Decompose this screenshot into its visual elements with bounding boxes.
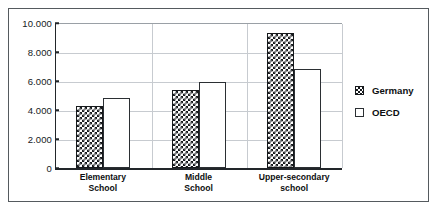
chart-frame: 10.000 8.000 6.000 4.000 2.000 0 [8, 8, 429, 202]
bar-group-elementary-school [55, 23, 151, 168]
legend-label-oecd: OECD [372, 107, 400, 118]
chart-legend: Germany OECD [355, 85, 439, 129]
x-axis-baseline [55, 168, 342, 170]
y-tick-mark [55, 80, 59, 82]
legend-label-germany: Germany [372, 85, 414, 96]
legend-swatch-oecd-icon [355, 108, 364, 117]
y-axis: 10.000 8.000 6.000 4.000 2.000 0 [9, 23, 52, 168]
y-tick-label: 0 [12, 163, 52, 174]
bar-group-upper-secondary-school [246, 23, 342, 168]
x-label-middle-school: Middle School [151, 172, 247, 194]
bar-oecd-elementary-school [103, 98, 130, 168]
y-tick-label: 2.000 [12, 134, 52, 145]
bar-oecd-middle-school [199, 82, 226, 168]
bar-germany-elementary-school [76, 106, 103, 168]
legend-item-oecd: OECD [355, 107, 439, 118]
category-separator [342, 24, 343, 168]
y-tick-mark [55, 167, 59, 169]
x-axis-labels: Elementary School Middle School Upper-se… [55, 172, 342, 194]
bar-layer [55, 23, 342, 168]
y-tick-label: 6.000 [12, 76, 52, 87]
y-tick-mark [55, 22, 59, 24]
x-label-upper-secondary-school: Upper-secondary school [246, 172, 342, 194]
y-tick-mark [55, 109, 59, 111]
y-tick-mark [55, 51, 59, 53]
legend-item-germany: Germany [355, 85, 439, 96]
x-label-elementary-school: Elementary School [55, 172, 151, 194]
chart-figure: 10.000 8.000 6.000 4.000 2.000 0 [0, 0, 439, 218]
y-tick-label: 10.000 [12, 18, 52, 29]
bar-germany-middle-school [172, 90, 199, 168]
y-tick-label: 4.000 [12, 105, 52, 116]
y-tick-mark [55, 138, 59, 140]
legend-swatch-germany-icon [355, 86, 364, 95]
bar-group-middle-school [151, 23, 247, 168]
y-tick-label: 8.000 [12, 47, 52, 58]
bar-oecd-upper-secondary-school [294, 69, 321, 168]
bar-germany-upper-secondary-school [267, 33, 294, 168]
